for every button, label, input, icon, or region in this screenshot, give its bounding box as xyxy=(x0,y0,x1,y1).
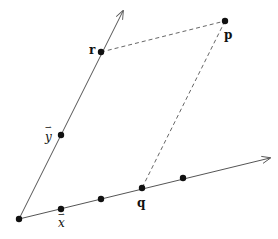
point-p xyxy=(222,18,228,24)
vector-arrow-icon: ⇀ xyxy=(58,210,65,219)
label-r: r xyxy=(89,43,96,57)
point-x-2 xyxy=(98,196,104,202)
point-q xyxy=(139,185,145,191)
label-y-vector: y xyxy=(44,130,52,144)
point-r xyxy=(98,49,104,55)
y-axis-line xyxy=(19,11,123,219)
point-x-4 xyxy=(180,175,186,181)
label-p: p xyxy=(224,28,232,42)
label-q: q xyxy=(137,196,146,210)
point-origin xyxy=(16,216,22,222)
dashed-line-r-p xyxy=(101,21,225,52)
vector-diagram: r p q y ⇀ x ⇀ xyxy=(0,0,278,239)
vector-arrow-icon: ⇀ xyxy=(45,123,52,132)
dashed-line-p-q xyxy=(142,21,225,188)
point-y-unit xyxy=(58,132,64,138)
